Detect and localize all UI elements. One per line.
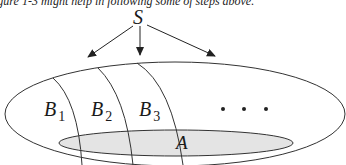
source-node-label: S [133,6,143,28]
partition-label-b3: B3 [139,98,160,124]
partition-label-b2: B2 [91,98,112,124]
arrow-right [147,25,215,56]
ellipsis-dot [221,107,225,111]
arrow-left [88,26,133,57]
partition-diagram: S B1 B2 B3 A [0,0,346,165]
ellipsis-dot [242,107,246,111]
partition-label-b1: B1 [44,98,65,124]
ellipsis-dot [264,107,268,111]
event-a-label: A [174,132,188,153]
